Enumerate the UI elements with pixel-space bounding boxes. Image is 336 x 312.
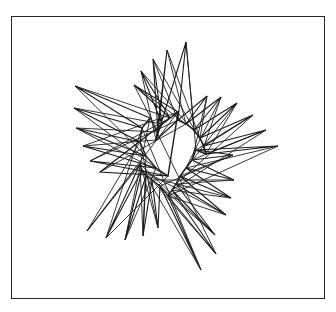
turtle-path: [74, 42, 278, 270]
spiral-star-drawing: [0, 0, 336, 312]
